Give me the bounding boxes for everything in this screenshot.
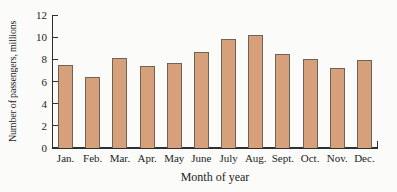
bar-jan bbox=[58, 65, 73, 148]
bar-feb bbox=[85, 77, 100, 148]
x-tick-label-jan: Jan. bbox=[52, 152, 79, 164]
y-axis-title: Number of passengers, millions bbox=[7, 15, 18, 148]
passengers-bar-chart-figure: Number of passengers, millions 024681012… bbox=[0, 0, 397, 192]
y-tick-mark-10 bbox=[53, 37, 58, 38]
y-tick-label-2: 2 bbox=[20, 120, 47, 131]
x-tick-label-feb: Feb. bbox=[79, 152, 106, 164]
y-tick-mark-8 bbox=[53, 59, 58, 60]
bar-apr bbox=[140, 66, 155, 148]
y-tick-label-10: 10 bbox=[20, 32, 47, 43]
x-tick-label-july: July bbox=[215, 152, 242, 164]
bar-mar bbox=[112, 58, 127, 148]
x-tick-label-may: May bbox=[161, 152, 188, 164]
y-tick-label-6: 6 bbox=[20, 76, 47, 87]
x-tick-label-dec: Dec. bbox=[351, 152, 378, 164]
bar-sept bbox=[275, 54, 290, 148]
x-tick-label-sept: Sept. bbox=[269, 152, 296, 164]
bar-aug bbox=[248, 35, 263, 148]
bar-may bbox=[167, 63, 182, 148]
y-tick-label-8: 8 bbox=[20, 54, 47, 65]
x-tick-label-aug: Aug. bbox=[242, 152, 269, 164]
bar-nov bbox=[330, 68, 345, 148]
x-tick-label-nov: Nov. bbox=[324, 152, 351, 164]
y-tick-label-0: 0 bbox=[20, 143, 47, 154]
bar-oct bbox=[303, 59, 318, 148]
x-tick-label-apr: Apr. bbox=[134, 152, 161, 164]
x-tick-label-oct: Oct. bbox=[297, 152, 324, 164]
y-tick-label-4: 4 bbox=[20, 98, 47, 109]
x-tick-label-mar: Mar. bbox=[106, 152, 133, 164]
x-axis-title: Month of year bbox=[52, 170, 378, 185]
bar-july bbox=[221, 39, 236, 148]
y-tick-mark-12 bbox=[53, 15, 58, 16]
x-axis-end-tick bbox=[377, 141, 378, 147]
y-tick-label-12: 12 bbox=[20, 10, 47, 21]
x-tick-label-june: June bbox=[188, 152, 215, 164]
bar-dec bbox=[357, 60, 372, 148]
bar-june bbox=[194, 52, 209, 148]
plot-area: 024681012Jan.Feb.Mar.Apr.MayJuneJulyAug.… bbox=[52, 15, 378, 148]
